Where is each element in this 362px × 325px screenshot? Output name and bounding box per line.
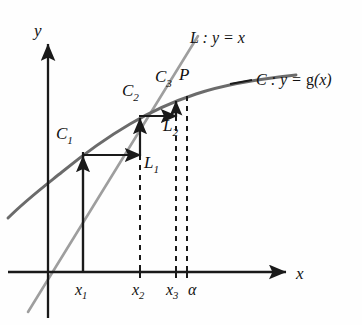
curve-label-arg: (x) xyxy=(314,71,332,89)
curve-label-fn: g xyxy=(306,71,314,89)
tick-label-x1-sub: 1 xyxy=(82,290,87,301)
tick-label-x2-sub: 2 xyxy=(139,290,145,301)
figure-canvas: y x L : y = x C : y = g(x) C1 C2 C3 P L1… xyxy=(0,0,362,325)
point-label-c3-sub: 3 xyxy=(165,77,172,89)
curve-label: C : y = g(x) xyxy=(256,71,332,89)
tick-label-x1-base: x xyxy=(74,281,82,298)
y-axis-label: y xyxy=(32,21,42,40)
x-axis-label: x xyxy=(295,264,304,283)
point-label-c2-sub: 2 xyxy=(133,91,139,103)
tick-label-x2-base: x xyxy=(131,281,139,298)
tick-label-x3-base: x xyxy=(165,281,173,298)
cobweb-diagram: y x L : y = x C : y = g(x) C1 C2 C3 P L1… xyxy=(0,0,362,325)
identity-line-label: L : y = x xyxy=(189,29,245,47)
background xyxy=(0,0,362,325)
curve-label-prefix: C : y = xyxy=(256,71,306,89)
tick-label-alpha: α xyxy=(188,281,197,298)
point-label-c1-base: C xyxy=(56,124,68,143)
point-label-l2-base: L xyxy=(162,116,172,135)
point-label-l1-sub: 1 xyxy=(153,163,159,175)
identity-line-label-text: L : y = x xyxy=(189,29,245,47)
point-label-p: P xyxy=(178,65,189,84)
point-label-c2-base: C xyxy=(122,81,134,100)
point-label-c1-sub: 1 xyxy=(67,134,73,146)
tick-label-x3-sub: 3 xyxy=(172,290,178,301)
point-label-l1-base: L xyxy=(143,153,153,172)
point-label-l2-sub: 2 xyxy=(172,126,178,138)
point-label-c3-base: C xyxy=(155,67,167,86)
